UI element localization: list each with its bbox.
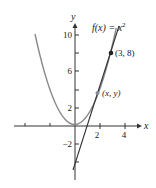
point-3-8 bbox=[109, 51, 114, 56]
point-label-x-y: (x, y) bbox=[102, 88, 120, 98]
tick-label-y-6: 6 bbox=[68, 66, 73, 76]
point-x-y bbox=[96, 91, 100, 95]
y-axis-label: y bbox=[70, 11, 76, 22]
x-axis-label: x bbox=[143, 120, 149, 131]
tick-label-y-neg2: −2 bbox=[62, 139, 72, 149]
x-axis-arrow-icon bbox=[137, 124, 142, 129]
function-label: f(x) = x2 bbox=[92, 21, 126, 34]
axes bbox=[14, 23, 142, 180]
function-plot: y x 2 4 10 6 2 −2 f(x) = x2 (3, 8) (x, y… bbox=[0, 0, 156, 188]
secant-line bbox=[73, 26, 119, 170]
y-axis-arrow-icon bbox=[73, 23, 78, 28]
point-label-3-8: (3, 8) bbox=[115, 48, 135, 58]
tick-label-y-10: 10 bbox=[63, 30, 73, 40]
parabola-curve bbox=[35, 28, 116, 125]
tick-label-x-4: 4 bbox=[122, 130, 127, 140]
y-ticks bbox=[75, 35, 79, 162]
tick-label-x-2: 2 bbox=[95, 130, 100, 140]
tick-label-y-2: 2 bbox=[68, 103, 73, 113]
